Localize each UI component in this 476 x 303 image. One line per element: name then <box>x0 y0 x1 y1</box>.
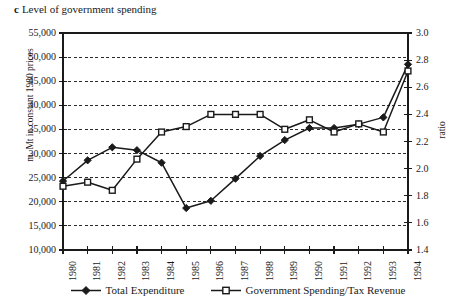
x-axis-tick-label: 1990 <box>314 261 324 281</box>
chart-legend: Total ExpenditureGovernment Spending/Tax… <box>0 281 476 299</box>
legend-marker-square-icon <box>211 285 241 296</box>
x-axis-tick-label: 1984 <box>166 261 176 281</box>
x-axis-tick-label: 1981 <box>92 261 102 281</box>
x-axis-tick-label: 1980 <box>68 261 78 281</box>
x-axis-tick-label: 1994 <box>413 261 423 281</box>
x-axis-tick-label: 1989 <box>289 261 299 281</box>
legend-marker-diamond-icon <box>71 285 101 296</box>
legend-item[interactable]: Total Expenditure <box>71 285 185 296</box>
x-axis-tick-label: 1993 <box>388 261 398 281</box>
x-axis-tick-label: 1985 <box>191 261 201 281</box>
x-axis-tick-label: 1988 <box>265 261 275 281</box>
x-axis-tick-label: 1983 <box>141 261 151 281</box>
x-axis-tick-label: 1986 <box>215 261 225 281</box>
x-axis-tick-labels: 1980198119821983198419851986198719881989… <box>0 0 476 303</box>
x-axis-tick-label: 1991 <box>339 261 349 281</box>
legend-item[interactable]: Government Spending/Tax Revenue <box>211 285 406 296</box>
legend-item-label: Government Spending/Tax Revenue <box>246 285 406 296</box>
x-axis-tick-label: 1982 <box>117 261 127 281</box>
x-axis-tick-label: 1987 <box>240 261 250 281</box>
legend-item-label: Total Expenditure <box>106 285 185 296</box>
x-axis-tick-label: 1992 <box>363 261 373 281</box>
figure-panel: cLevel of government spending m. Mt in c… <box>0 0 476 303</box>
